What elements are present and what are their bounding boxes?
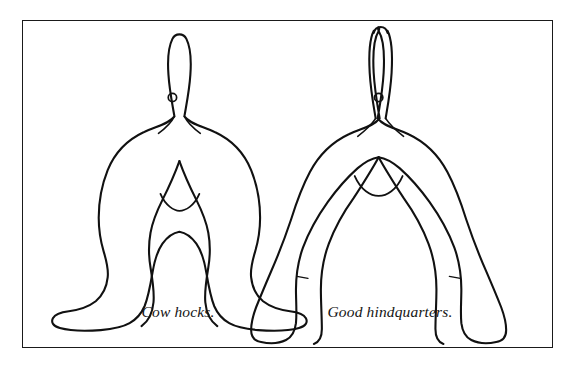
good-hindquarters-dewclaw-right (449, 276, 460, 278)
good-hindquarters-tail-crease-right (386, 118, 404, 136)
good-hindquarters-drawing (251, 27, 506, 344)
page-canvas: Cow hocks. Good hindquarters. (0, 0, 567, 366)
good-hindquarters-dewclaw-left (297, 276, 308, 278)
hindquarters-illustration (23, 21, 552, 347)
caption-good-hindquarters: Good hindquarters. (300, 303, 480, 321)
cow-hocks-body-outline (52, 34, 307, 330)
cow-hocks-drawing (52, 34, 307, 330)
good-hindquarters-tail-tip (374, 27, 388, 33)
caption-cow-hocks: Cow hocks. (108, 303, 248, 321)
good-hindquarters-tail-right-edge (386, 31, 392, 118)
page-body-text-clip (20, 357, 547, 366)
good-hindquarters-body-outline (251, 27, 506, 343)
figure-frame (22, 20, 553, 348)
